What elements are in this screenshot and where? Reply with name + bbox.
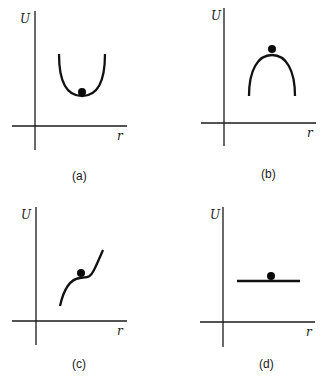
x-axis-label: r <box>307 126 314 140</box>
panel-caption: (a) <box>72 169 87 183</box>
equilibrium-diagram: U r (a) U r (b) U r (c) U r (d) <box>0 0 325 385</box>
y-axis-label: U <box>210 208 221 222</box>
y-axis-label: U <box>211 9 222 23</box>
inflection-curve <box>60 250 103 306</box>
panel-caption: (b) <box>261 167 276 181</box>
panel-caption: (c) <box>72 357 86 371</box>
panel-d: U r (d) <box>200 207 315 371</box>
panel-b: U r (b) <box>201 8 316 181</box>
x-axis-label: r <box>117 324 124 338</box>
panel-a: U r (a) <box>12 11 127 183</box>
y-axis-label: U <box>20 12 31 26</box>
x-axis-label: r <box>306 325 313 339</box>
ball <box>267 272 275 280</box>
ball <box>77 269 85 277</box>
panel-c: U r (c) <box>12 207 127 371</box>
ball <box>268 45 276 53</box>
ball <box>78 88 86 96</box>
potential-hill-curve <box>249 55 295 96</box>
x-axis-label: r <box>117 129 124 143</box>
y-axis-label: U <box>21 208 32 222</box>
panel-caption: (d) <box>259 357 274 371</box>
